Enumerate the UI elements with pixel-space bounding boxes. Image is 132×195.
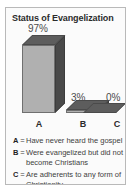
legend-text-a: Have never heard the gospel <box>26 136 123 147</box>
legend-separator-a: = <box>19 136 26 147</box>
axis-label-c: C <box>108 119 126 129</box>
axis-label-b: B <box>74 119 92 129</box>
bar-a-side-face <box>55 35 65 113</box>
axis-label-a: A <box>30 119 48 129</box>
bar-a-front-face <box>22 45 55 113</box>
legend-item-b: B = Were evangelized but did not become … <box>13 148 123 169</box>
bar-a[interactable] <box>22 35 65 113</box>
legend-text-b: Were evangelized but did not become Chri… <box>26 148 123 169</box>
chart-figure: Status of Evangelization 97% A 3% B 0% <box>5 7 126 185</box>
value-label-c: 0% <box>106 92 120 103</box>
legend-separator-c: = <box>19 170 26 181</box>
value-label-a: 97% <box>28 23 48 34</box>
chart-legend: A = Have never heard the gospel B = Were… <box>13 136 123 185</box>
bar-c[interactable] <box>83 103 126 113</box>
legend-separator-b: = <box>19 148 26 159</box>
page-title: Status of Evangelization <box>12 13 114 23</box>
plot-area: 97% A 3% B 0% C <box>6 25 125 135</box>
bar-c-top-face <box>83 103 126 113</box>
legend-item-c: C = Are adherents to any form of Christi… <box>13 170 123 186</box>
legend-item-a: A = Have never heard the gospel <box>13 136 123 147</box>
legend-text-c: Are adherents to any form of Christianit… <box>26 170 123 186</box>
